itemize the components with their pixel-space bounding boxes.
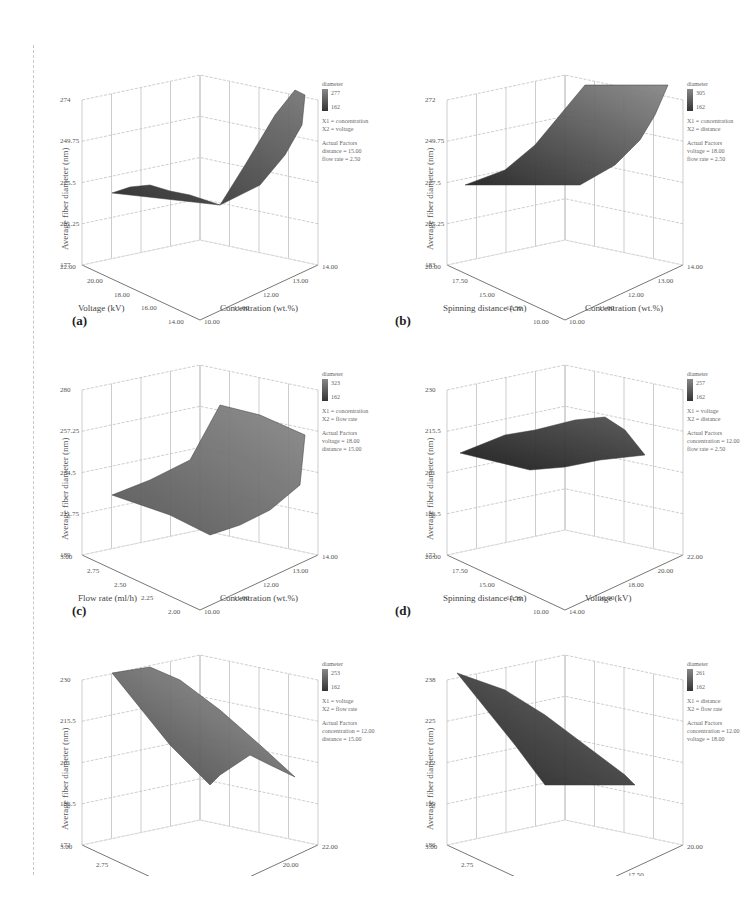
colorbar-max: 257 xyxy=(696,379,705,387)
colorbar-title: diameter xyxy=(322,370,392,378)
x1-definition: X1 = concentration xyxy=(322,117,392,125)
colorbar: 253162 xyxy=(322,669,392,691)
right-axis-title: Voltage (kV) xyxy=(585,593,632,603)
left-axis-tick: 2.75 xyxy=(461,861,473,869)
panel-label: (b) xyxy=(395,313,411,329)
left-axis-tick: 18.00 xyxy=(114,291,130,299)
colorbar: 277162 xyxy=(322,89,392,111)
right-axis-tick: 22.00 xyxy=(687,553,703,561)
response-surface xyxy=(460,417,645,470)
actual-factor-2: voltage = 18.00 xyxy=(687,735,744,743)
right-axis-title: Concentration (wt.%) xyxy=(585,303,663,313)
left-axis-tick: 2.00 xyxy=(168,608,180,616)
left-axis-tick: 2.75 xyxy=(87,567,99,575)
x1-definition: X1 = distance xyxy=(687,697,744,705)
colorbar: 305162 xyxy=(687,89,744,111)
z-axis-label: Average fiber diameter (nm) xyxy=(60,727,70,830)
x1-definition: X1 = voltage xyxy=(687,407,744,415)
colorbar-max: 277 xyxy=(331,89,340,97)
x2-definition: X2 = voltage xyxy=(322,125,392,133)
colorbar-gradient xyxy=(322,669,328,691)
left-axis-tick: 15.00 xyxy=(479,291,495,299)
z-tick: 215.5 xyxy=(425,427,441,435)
chart-panel-c: Average fiber diameter (nm)280257.25234.… xyxy=(20,335,380,625)
colorbar-gradient xyxy=(687,379,693,401)
actual-factor-1: concentration = 12.00 xyxy=(687,437,744,445)
z-tick: 234.5 xyxy=(60,469,76,477)
colorbar-min: 162 xyxy=(696,393,705,401)
colorbar: 261162 xyxy=(687,669,744,691)
colorbar-min: 162 xyxy=(331,103,340,111)
left-axis-tick: 20.00 xyxy=(425,263,441,271)
colorbar-min: 162 xyxy=(696,683,705,691)
left-axis-tick: 17.50 xyxy=(452,567,468,575)
right-axis-title: Concentration (wt.%) xyxy=(220,303,298,313)
left-axis-title: Flow rate (ml/h) xyxy=(78,593,137,603)
z-axis-label: Average fiber diameter (nm) xyxy=(60,147,70,250)
chart-panel-f: Average fiber diameter (nm)2382252121991… xyxy=(385,625,744,915)
left-axis-tick: 10.00 xyxy=(533,318,549,326)
colorbar-title: diameter xyxy=(687,80,744,88)
z-tick: 257.25 xyxy=(60,427,79,435)
legend: diameter257162X1 = voltageX2 = distanceA… xyxy=(687,370,744,453)
z-tick: 205.25 xyxy=(425,220,444,228)
page-bottom-whitespace xyxy=(0,876,735,923)
colorbar-title: diameter xyxy=(322,660,392,668)
legend: diameter261162X1 = distanceX2 = flow rat… xyxy=(687,660,744,743)
actual-factor-2: distance = 15.00 xyxy=(322,735,392,743)
colorbar: 257162 xyxy=(687,379,744,401)
z-tick: 249.75 xyxy=(60,137,79,145)
actual-factors-title: Actual Factors xyxy=(687,719,744,727)
left-axis-tick: 10.00 xyxy=(533,608,549,616)
chart-panel-d: Average fiber diameter (nm)230215.520118… xyxy=(385,335,744,625)
actual-factor-1: voltage = 18.00 xyxy=(322,437,392,445)
x2-definition: X2 = flow rate xyxy=(322,415,392,423)
left-axis-tick: 17.50 xyxy=(452,277,468,285)
left-axis-tick: 20.00 xyxy=(425,553,441,561)
right-axis-tick: 12.00 xyxy=(263,291,279,299)
z-tick: 225 xyxy=(425,717,436,725)
right-axis-tick: 20.00 xyxy=(658,567,674,575)
colorbar-gradient xyxy=(322,379,328,401)
z-tick: 186.5 xyxy=(60,800,76,808)
colorbar-max: 305 xyxy=(696,89,705,97)
colorbar-gradient xyxy=(687,669,693,691)
z-tick: 230 xyxy=(425,386,436,394)
colorbar: 323162 xyxy=(322,379,392,401)
actual-factor-2: distance = 15.00 xyxy=(322,445,392,453)
z-tick: 227.5 xyxy=(425,179,441,187)
chart-panel-a: Average fiber diameter (nm)274249.75225.… xyxy=(20,45,380,335)
z-tick: 215.5 xyxy=(60,717,76,725)
z-tick: 238 xyxy=(425,676,436,684)
right-axis-tick: 20.00 xyxy=(283,861,299,869)
colorbar-min: 162 xyxy=(696,103,705,111)
left-axis-tick: 15.00 xyxy=(479,581,495,589)
z-axis-label: Average fiber diameter (nm) xyxy=(425,437,435,540)
left-axis-tick: 2.75 xyxy=(96,861,108,869)
colorbar-max: 261 xyxy=(696,669,705,677)
legend: diameter323162X1 = concentrationX2 = flo… xyxy=(322,370,392,453)
panel-label: (a) xyxy=(72,313,87,329)
right-axis-tick: 18.00 xyxy=(628,581,644,589)
actual-factors-title: Actual Factors xyxy=(322,139,392,147)
z-tick: 272 xyxy=(425,96,436,104)
actual-factors-title: Actual Factors xyxy=(322,719,392,727)
z-tick: 186.5 xyxy=(425,510,441,518)
z-tick: 211.75 xyxy=(60,510,79,518)
colorbar-max: 253 xyxy=(331,669,340,677)
z-tick: 212 xyxy=(425,759,436,767)
actual-factors-title: Actual Factors xyxy=(687,139,744,147)
left-axis-tick: 3.00 xyxy=(60,843,72,851)
right-axis-tick: 13.00 xyxy=(293,567,309,575)
left-axis-tick: 16.00 xyxy=(141,304,157,312)
legend: diameter305162X1 = concentrationX2 = dis… xyxy=(687,80,744,163)
x1-definition: X1 = voltage xyxy=(322,697,392,705)
x2-definition: X2 = flow rate xyxy=(322,705,392,713)
actual-factor-2: flow rate = 2.50 xyxy=(687,155,744,163)
colorbar-title: diameter xyxy=(687,660,744,668)
actual-factor-1: voltage = 18.00 xyxy=(687,147,744,155)
right-axis-tick: 12.00 xyxy=(263,581,279,589)
right-axis-tick: 13.00 xyxy=(293,277,309,285)
z-tick: 225.5 xyxy=(60,179,76,187)
left-axis-tick: 20.00 xyxy=(87,277,103,285)
